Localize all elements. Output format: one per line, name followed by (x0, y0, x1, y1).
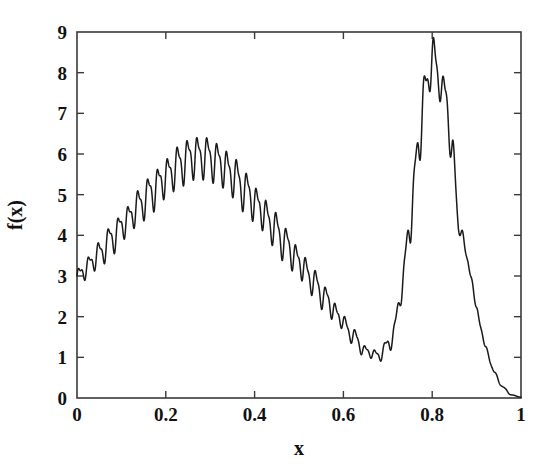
x-tick-label: 0.6 (332, 404, 356, 425)
chart-figure: 00.20.40.60.81 0123456789 x f(x) (0, 0, 545, 466)
y-tick-label: 0 (58, 388, 68, 409)
x-tick-label: 0.8 (420, 404, 444, 425)
y-tick-label: 5 (58, 185, 68, 206)
x-tick-label: 1 (516, 404, 526, 425)
series-line-fx (77, 38, 521, 398)
y-tick-label: 7 (58, 103, 68, 124)
y-tick-label: 6 (58, 144, 68, 165)
y-tick-label: 8 (58, 63, 68, 84)
x-tick-label: 0.2 (154, 404, 178, 425)
y-tick-label: 4 (58, 225, 68, 246)
x-axis-title: x (294, 437, 304, 459)
y-tick-labels: 0123456789 (58, 22, 68, 409)
y-tick-label: 9 (58, 22, 68, 43)
y-tick-label: 3 (58, 266, 68, 287)
y-tick-label: 2 (58, 307, 68, 328)
y-tick-label: 1 (58, 347, 68, 368)
y-axis-title: f(x) (4, 200, 27, 230)
x-tick-label: 0.4 (243, 404, 267, 425)
line-chart-svg: 00.20.40.60.81 0123456789 x f(x) (0, 0, 545, 466)
x-tick-labels: 00.20.40.60.81 (72, 404, 526, 425)
x-tick-label: 0 (72, 404, 82, 425)
